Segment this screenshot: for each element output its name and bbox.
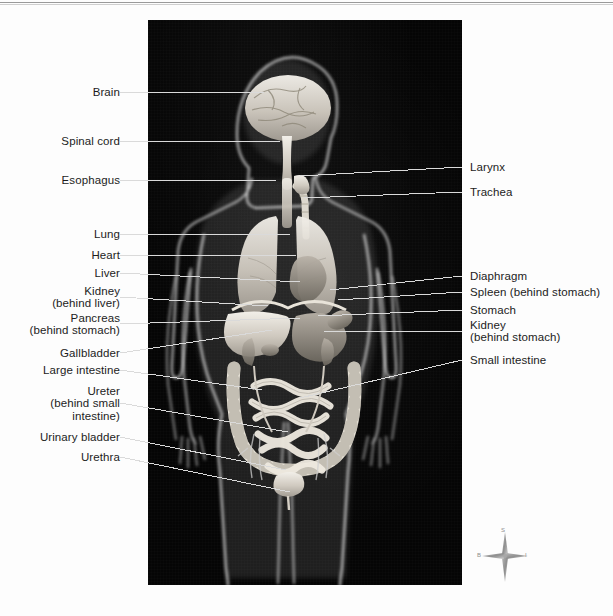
label-brain: Brain <box>10 86 120 98</box>
label-stomach: Stomach <box>470 304 610 316</box>
label-urinary-bladder: Urinary bladder <box>4 431 120 443</box>
page-canvas: Brain Spinal cord Esophagus Lung Heart L… <box>0 0 613 616</box>
page-top-rule-shadow <box>0 4 613 5</box>
label-gallbladder: Gallbladder <box>10 347 120 359</box>
spinal-cord-organ <box>282 178 292 228</box>
anatomy-image-panel <box>148 20 462 585</box>
compass-star-icon <box>478 528 532 586</box>
label-spinal-cord: Spinal cord <box>10 135 120 147</box>
compass-label-superior: S <box>501 527 505 533</box>
label-heart: Heart <box>10 249 120 261</box>
label-spleen-behind-stomach: Spleen (behind stomach) <box>470 286 612 298</box>
human-body-illustration <box>148 20 462 585</box>
label-ureter-behind-small-intestine: Ureter (behind small intestine) <box>10 385 120 422</box>
label-kidney-behind-liver: Kidney (behind liver) <box>10 285 120 310</box>
gallbladder-organ <box>261 344 279 356</box>
urethra-organ <box>288 496 289 510</box>
label-trachea: Trachea <box>470 186 610 198</box>
label-kidney-behind-stomach: Kidney (behind stomach) <box>470 319 610 344</box>
larynx-organ <box>294 175 310 194</box>
label-lung: Lung <box>10 228 120 240</box>
page-top-rule <box>0 2 613 3</box>
label-large-intestine: Large intestine <box>10 364 120 376</box>
label-larynx: Larynx <box>470 161 610 173</box>
label-urethra: Urethra <box>10 451 120 463</box>
label-small-intestine: Small intestine <box>470 354 610 366</box>
compass-label-right: I <box>525 552 527 558</box>
label-diaphragm: Diaphragm <box>470 270 610 282</box>
label-liver: Liver <box>10 267 120 279</box>
label-esophagus: Esophagus <box>10 174 120 186</box>
label-pancreas-behind-stomach: Pancreas (behind stomach) <box>4 312 120 337</box>
compass-label-left: B <box>477 552 481 558</box>
orientation-compass-rose: S B I <box>478 528 532 586</box>
